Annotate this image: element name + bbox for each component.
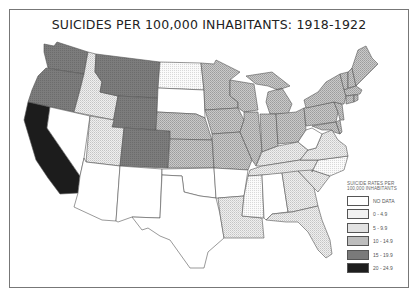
state-IA — [205, 108, 244, 134]
state-NY — [304, 74, 346, 108]
state-CO — [120, 128, 170, 168]
legend-title-line2: 100,000 INHABITANTS — [347, 186, 407, 191]
legend-label: 0 - 4.9 — [373, 211, 387, 217]
state-CT — [346, 95, 354, 104]
legend-swatch — [347, 196, 369, 206]
legend-swatch — [347, 223, 369, 233]
legend-label: 5 - 9.9 — [373, 225, 387, 231]
legend-swatch — [347, 209, 369, 219]
legend-title: SUICIDE RATES PER 100,000 INHABITANTS — [347, 181, 407, 191]
legend-swatch — [347, 236, 369, 246]
state-ND — [158, 62, 204, 90]
legend-item-nodata: NO DATA — [347, 194, 407, 207]
legend-label: 10 - 14.9 — [373, 238, 393, 244]
state-FL — [266, 206, 332, 258]
legend-label: 20 - 24.9 — [373, 265, 393, 271]
legend-item-15-19.9: 15 - 19.9 — [347, 248, 407, 261]
state-WY — [112, 96, 158, 130]
legend-item-20-24.9: 20 - 24.9 — [347, 262, 407, 275]
legend: SUICIDE RATES PER 100,000 INHABITANTS NO… — [347, 181, 407, 275]
legend-item-5-9.9: 5 - 9.9 — [347, 221, 407, 234]
legend-label: NO DATA — [373, 198, 394, 204]
state-KS — [168, 139, 214, 168]
state-IN — [260, 114, 278, 152]
legend-swatch — [347, 250, 369, 260]
state-NM — [116, 166, 162, 222]
state-AR — [214, 168, 248, 198]
state-RI — [354, 95, 358, 102]
legend-item-10-14.9: 10 - 14.9 — [347, 235, 407, 248]
state-ME — [352, 46, 378, 86]
state-MT — [95, 54, 160, 98]
legend-item-0-4.9: 0 - 4.9 — [347, 208, 407, 221]
legend-label: 15 - 19.9 — [373, 252, 393, 258]
legend-swatch — [347, 263, 369, 273]
